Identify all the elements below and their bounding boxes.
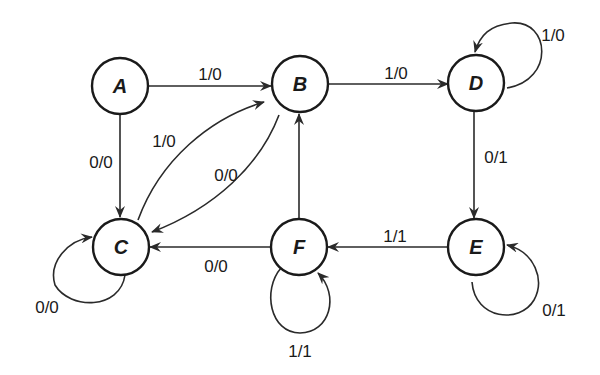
edge-label-d-d: 1/0	[541, 26, 565, 45]
edge-label-a-c: 0/0	[89, 153, 113, 172]
edge-c-to-b	[138, 102, 264, 220]
edge-label-f-f: 1/1	[288, 342, 312, 361]
state-diagram: A B D C F E 1/0 0/0 1/0 1/0 0/0 1/0 0/1 …	[0, 0, 600, 375]
edge-label-d-e: 0/1	[484, 148, 508, 167]
node-c-label: C	[114, 236, 129, 258]
edge-label-e-e: 0/1	[542, 301, 566, 320]
edge-label-f-c: 0/0	[204, 257, 228, 276]
node-f-label: F	[293, 236, 306, 258]
edge-label-b-c: 0/0	[214, 166, 238, 185]
node-e: E	[448, 219, 504, 275]
node-d: D	[448, 55, 504, 111]
node-b-label: B	[293, 73, 307, 95]
node-a-label: A	[112, 75, 127, 97]
node-d-label: D	[469, 72, 483, 94]
edge-f-to-f	[271, 268, 330, 333]
node-e-label: E	[469, 236, 483, 258]
node-c: C	[93, 219, 149, 275]
edge-label-e-f: 1/1	[383, 227, 407, 246]
node-a: A	[92, 58, 148, 114]
edge-label-a-b: 1/0	[198, 65, 222, 84]
node-b: B	[272, 56, 328, 112]
node-f: F	[271, 219, 327, 275]
edge-label-c-c: 0/0	[35, 298, 59, 317]
edge-label-c-b: 1/0	[152, 132, 176, 151]
edge-label-b-d: 1/0	[384, 64, 408, 83]
